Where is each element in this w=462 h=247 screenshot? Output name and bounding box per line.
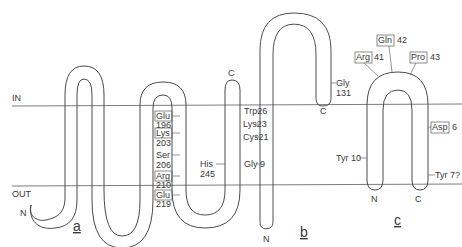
c-residue-arg41-name: Arg <box>356 52 370 62</box>
a-residue-glu219-num: 219 <box>156 199 171 209</box>
b-residue-gly9-name: Gly <box>244 159 258 169</box>
a-residue-his245-name: His <box>200 159 213 169</box>
b-c-terminus: C <box>320 106 327 116</box>
topology-a <box>30 66 240 247</box>
c-n-terminus: N <box>371 194 378 204</box>
panel-label-a: a <box>73 218 81 234</box>
b-residue-gly131-num: 131 <box>336 88 351 98</box>
b-residue-gly131-name: Gly <box>336 78 350 88</box>
c-residue-tyr7x-num: 7? <box>450 170 460 180</box>
topology-c <box>367 72 428 190</box>
svg-text:Gly 9: Gly 9 <box>244 159 265 169</box>
topology-diagram: IN OUT N C a Glu 196 Lys 203 Ser 206 Arg… <box>0 0 462 247</box>
c-residue-pro43-name: Pro <box>411 52 425 62</box>
topology-b <box>260 13 331 229</box>
membrane-in-line <box>12 104 462 106</box>
c-residue-arg41-num: 41 <box>374 52 384 62</box>
b-residue-labels: Trp26 Lys23 Cys21 Gly 9 Gly 131 <box>243 78 351 169</box>
out-label: OUT <box>12 189 32 199</box>
a-n-terminus: N <box>20 208 27 218</box>
c-c-terminus: C <box>415 194 422 204</box>
a-residue-arg210-num: 210 <box>156 180 171 190</box>
c-residue-gln42-num: 42 <box>397 35 407 45</box>
in-label: IN <box>12 93 21 103</box>
a-residue-ser206-num: 206 <box>156 160 171 170</box>
a-residue-his245-num: 245 <box>200 169 215 179</box>
svg-text:Lys23: Lys23 <box>243 119 267 129</box>
panel-label-c: c <box>394 212 401 228</box>
a-residue-lys203-num: 203 <box>156 138 171 148</box>
a-c-terminus: C <box>228 68 235 78</box>
b-n-terminus: N <box>263 234 270 244</box>
c-residue-asp6-name: Asp <box>432 122 448 132</box>
a-residue-lys203-name: Lys <box>156 128 170 138</box>
svg-text:Trp26: Trp26 <box>244 106 267 116</box>
a-residue-ser206-name: Ser <box>156 150 170 160</box>
c-residue-pro43-num: 43 <box>430 52 440 62</box>
c-residue-tyr7x-name: Tyr <box>435 170 448 180</box>
panel-label-b: b <box>300 224 308 240</box>
c-residue-labels: Arg 41 Gln 42 Pro 43 Asp 6 Tyr 10 Tyr 7? <box>336 35 460 180</box>
c-residue-asp6-num: 6 <box>452 122 457 132</box>
c-residue-gln42-name: Gln <box>378 35 392 45</box>
membrane-out-line <box>12 184 462 186</box>
a-residue-labels: Glu 196 Lys 203 Ser 206 Arg 210 Glu 219 … <box>155 111 225 209</box>
b-residue-trp-name: Trp <box>244 106 257 116</box>
svg-text:Tyr 10: Tyr 10 <box>336 153 361 163</box>
c-residue-tyr10-name: Tyr <box>336 153 349 163</box>
svg-text:Tyr 7?: Tyr 7? <box>435 170 460 180</box>
